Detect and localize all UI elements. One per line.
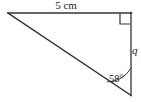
geometry-diagram: 5 cm q 58° — [0, 0, 141, 102]
triangle-figure — [0, 0, 141, 102]
triangle-side-hypotenuse — [8, 13, 131, 95]
angle-arc-icon — [107, 68, 131, 82]
right-angle-marker-icon — [120, 14, 130, 24]
